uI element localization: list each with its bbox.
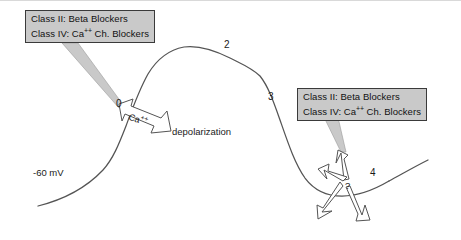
callout-right-line2: Class IV: Ca++ Ch. Blockers — [303, 103, 421, 118]
callout-left-tail — [62, 43, 124, 108]
phase-label-3: 3 — [268, 91, 274, 102]
callout-left-line2: Class IV: Ca++ Ch. Blockers — [31, 25, 149, 40]
pacemaker-arrow-downleft — [317, 182, 343, 219]
phase-label-2: 2 — [224, 39, 230, 50]
depolarization-label: depolarization — [172, 126, 231, 137]
callout-right-line2-post: Ch. Blockers — [364, 106, 421, 117]
phase-4-tail-curve — [389, 160, 428, 181]
resting-potential-label: -60 mV — [33, 167, 64, 178]
callout-right-line2-pre: Class IV: Ca — [303, 106, 356, 117]
callout-right-line2-superscript: ++ — [356, 105, 364, 112]
callout-left-phase0: Class II: Beta Blockers Class IV: Ca++ C… — [25, 10, 155, 43]
callout-left-line1: Class II: Beta Blockers — [31, 13, 149, 25]
callout-right-line1: Class II: Beta Blockers — [303, 91, 421, 103]
callout-left-line2-superscript: ++ — [84, 27, 92, 34]
diagram-canvas: Class II: Beta Blockers Class IV: Ca++ C… — [0, 0, 461, 240]
callout-left-line2-post: Ch. Blockers — [92, 28, 149, 39]
phase-label-4: 4 — [370, 167, 376, 178]
callout-right-phase4: Class II: Beta Blockers Class IV: Ca++ C… — [297, 88, 427, 121]
callout-left-line2-pre: Class IV: Ca — [31, 28, 84, 39]
unknown-mechanism-label: ? — [345, 180, 350, 191]
pacemaker-arrow-cluster — [317, 150, 370, 221]
phase-label-0: 0 — [116, 98, 122, 109]
